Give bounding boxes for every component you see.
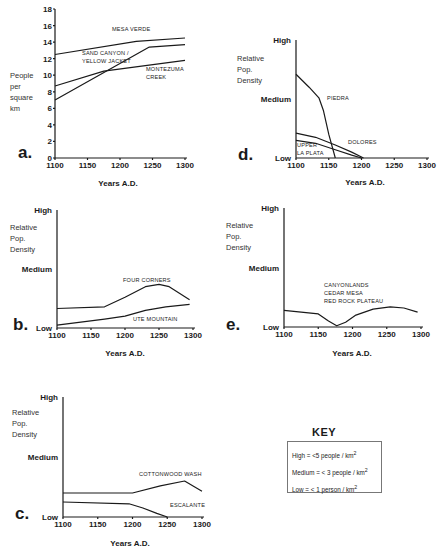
series-line bbox=[57, 284, 190, 308]
y-axis-title: Pop. bbox=[10, 234, 25, 243]
panel-label: d. bbox=[238, 145, 253, 164]
axes bbox=[63, 397, 204, 517]
key-title: KEY bbox=[312, 426, 336, 438]
series-label: PIEDRA bbox=[327, 95, 349, 101]
y-axis-title: Density bbox=[10, 245, 35, 254]
series-label: MONTEZUMA bbox=[146, 66, 184, 72]
y-level-label: High bbox=[273, 36, 291, 45]
series-label: ESCALANTE bbox=[170, 502, 205, 508]
key-row-low: Low = < 1 person / km2 bbox=[292, 480, 381, 497]
panel-label: c. bbox=[15, 504, 29, 523]
y-level-label: Medium bbox=[22, 265, 52, 274]
y-level-label: High bbox=[40, 393, 58, 402]
chart-d: 11001150120012501300LowMediumHighRelativ… bbox=[237, 36, 436, 187]
series-line bbox=[284, 307, 418, 326]
x-tick-label: 1200 bbox=[124, 520, 142, 529]
y-level-label: Low bbox=[42, 513, 59, 522]
x-tick-label: 1200 bbox=[344, 330, 362, 339]
series-label: MESA VERDE bbox=[112, 26, 150, 32]
series-label: FOUR CORNERS bbox=[123, 277, 171, 283]
axes bbox=[284, 208, 423, 327]
y-tick-label: 2 bbox=[48, 137, 53, 146]
y-axis-title: Relative bbox=[12, 408, 39, 417]
y-tick-label: 8 bbox=[48, 88, 53, 97]
x-tick-label: 1250 bbox=[158, 520, 176, 529]
y-level-label: Medium bbox=[249, 264, 279, 273]
x-tick-label: 1250 bbox=[150, 331, 168, 340]
x-axis-title: Years A.D. bbox=[105, 349, 144, 358]
y-axis-title: Relative bbox=[237, 54, 264, 63]
x-tick-label: 1200 bbox=[116, 331, 134, 340]
y-level-label: High bbox=[34, 206, 52, 215]
series-label: YELLOW JACKET bbox=[82, 58, 131, 64]
y-tick-label: 6 bbox=[48, 104, 53, 113]
key-row-high: High = <5 people / km2 bbox=[292, 446, 381, 463]
x-tick-label: 1300 bbox=[418, 161, 436, 170]
y-axis-title: Density bbox=[237, 76, 262, 85]
y-axis-title: Relative bbox=[10, 223, 37, 232]
series-label: RED ROCK PLATEAU bbox=[324, 298, 383, 304]
key-row-medium: Medium = < 3 people / km2 bbox=[292, 463, 381, 480]
y-level-label: High bbox=[261, 204, 279, 213]
y-tick-label: 10 bbox=[43, 71, 52, 80]
panel-label: e. bbox=[226, 315, 240, 334]
x-tick-label: 1200 bbox=[111, 161, 129, 170]
x-axis-title: Years A.D. bbox=[110, 539, 149, 548]
x-tick-label: 1150 bbox=[82, 331, 100, 340]
chart-e: 11001150120012501300LowMediumHighRelativ… bbox=[226, 204, 430, 358]
x-tick-label: 1250 bbox=[144, 161, 162, 170]
y-axis-title: square bbox=[10, 93, 33, 102]
chart-c: 11001150120012501300LowMediumHighRelativ… bbox=[12, 393, 211, 548]
x-tick-label: 1250 bbox=[385, 161, 403, 170]
y-level-label: Medium bbox=[28, 453, 58, 462]
y-axis-title: Relative bbox=[226, 221, 253, 230]
y-level-label: Medium bbox=[261, 95, 291, 104]
series-label: UPPER bbox=[297, 142, 317, 148]
y-axis-title: per bbox=[10, 82, 21, 91]
y-axis-title: People bbox=[10, 71, 33, 80]
x-tick-label: 1300 bbox=[193, 520, 211, 529]
series-label: CANYONLANDS bbox=[324, 282, 369, 288]
x-tick-label: 1300 bbox=[184, 331, 202, 340]
chart-a: 11001150120012501300024681012141618Peopl… bbox=[10, 5, 194, 188]
x-tick-label: 1150 bbox=[89, 520, 107, 529]
y-tick-label: 18 bbox=[43, 5, 52, 14]
y-tick-label: 0 bbox=[48, 154, 53, 163]
series-label: UTE MOUNTAIN bbox=[133, 316, 178, 322]
series-label: COTTONWOOD WASH bbox=[139, 471, 202, 477]
y-axis-title: km bbox=[10, 104, 20, 113]
y-tick-label: 4 bbox=[48, 121, 53, 130]
x-tick-label: 1150 bbox=[320, 161, 338, 170]
y-level-label: Low bbox=[36, 324, 53, 333]
x-tick-label: 1200 bbox=[353, 161, 371, 170]
x-tick-label: 1250 bbox=[378, 330, 396, 339]
key-box: High = <5 people / km2 Medium = < 3 peop… bbox=[287, 441, 382, 493]
y-axis-title: Density bbox=[12, 430, 37, 439]
x-axis-title: Years A.D. bbox=[98, 179, 137, 188]
series-label: DOLORES bbox=[348, 139, 377, 145]
x-axis-title: Years A.D. bbox=[332, 349, 371, 358]
series-label: SAND CANYON / bbox=[82, 50, 129, 56]
panel-label: a. bbox=[18, 143, 32, 162]
series-label: LA PLATA bbox=[297, 150, 324, 156]
y-tick-label: 12 bbox=[43, 55, 52, 64]
x-tick-label: 1150 bbox=[310, 330, 328, 339]
x-tick-label: 1300 bbox=[412, 330, 430, 339]
chart-b: 11001150120012501300LowMediumHighRelativ… bbox=[10, 206, 202, 358]
y-axis-title: Pop. bbox=[12, 419, 27, 428]
axes bbox=[57, 210, 195, 328]
y-tick-label: 16 bbox=[43, 22, 52, 31]
y-axis-title: Density bbox=[226, 243, 251, 252]
series-label: CEDAR MESA bbox=[324, 290, 363, 296]
y-axis-title: Pop. bbox=[237, 65, 252, 74]
x-tick-label: 1300 bbox=[176, 161, 194, 170]
panel-label: b. bbox=[13, 315, 28, 334]
y-level-label: Low bbox=[263, 323, 280, 332]
y-axis-title: Pop. bbox=[226, 232, 241, 241]
x-axis-title: Years A.D. bbox=[345, 178, 384, 187]
y-tick-label: 14 bbox=[43, 38, 52, 47]
series-line bbox=[63, 481, 202, 493]
series-label: CREEK bbox=[146, 74, 166, 80]
y-level-label: Low bbox=[275, 154, 292, 163]
series-line bbox=[63, 502, 167, 517]
